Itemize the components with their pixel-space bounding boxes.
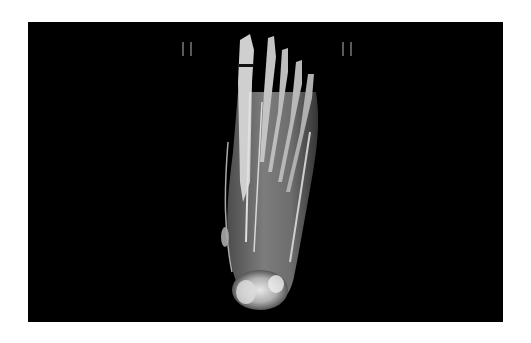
image-viewport	[28, 22, 503, 322]
foot-ct-render	[28, 22, 503, 322]
